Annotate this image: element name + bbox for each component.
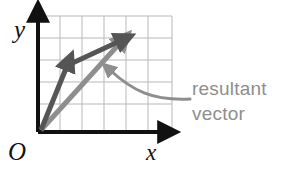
x-axis-label: x (145, 140, 157, 165)
curved-callout-arrow (111, 71, 190, 99)
annotation-line-2: vector (192, 103, 245, 124)
y-axis-label: y (11, 16, 26, 43)
component-vector-a (41, 66, 67, 130)
origin-label: O (8, 138, 26, 165)
vector-diagram: y x O resultant vector (0, 0, 289, 171)
vector-group (41, 41, 120, 130)
figure-canvas: y x O resultant vector (0, 0, 289, 171)
annotation-line-1: resultant (192, 78, 267, 99)
resultant-vector (41, 43, 120, 130)
